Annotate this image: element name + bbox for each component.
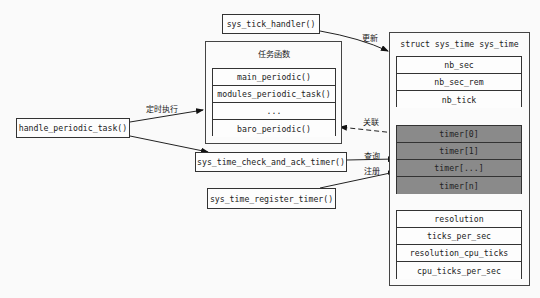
struct-field: ticks_per_sec: [397, 228, 521, 245]
struct-field: cpu_ticks_per_sec: [397, 262, 521, 279]
handle-periodic-task-node: handle_periodic_task(): [16, 118, 130, 138]
task-function-item: ...: [213, 103, 335, 120]
edge-register: [320, 172, 395, 188]
sys-time-struct: struct sys_time sys_time nb_sec nb_sec_r…: [389, 32, 530, 286]
check-and-ack-timer-node: sys_time_check_and_ack_timer(): [195, 152, 347, 172]
edge-label-query: 查询: [364, 150, 380, 161]
timer-slot: timer[n]: [397, 177, 521, 194]
task-function-item: main_periodic(): [213, 69, 335, 86]
resolution-fields: resolution ticks_per_sec resolution_cpu_…: [396, 210, 522, 279]
struct-field: resolution: [397, 211, 521, 228]
struct-title: struct sys_time sys_time: [390, 39, 529, 49]
timer-slot: timer[...]: [397, 160, 521, 177]
node-label: sys_time_register_timer(): [210, 194, 333, 204]
counter-fields: nb_sec nb_sec_rem nb_tick: [396, 56, 522, 107]
timer-slot: timer[0]: [397, 126, 521, 143]
register-timer-node: sys_time_register_timer(): [207, 188, 336, 209]
task-function-item: baro_periodic(): [213, 120, 335, 137]
sys-tick-handler-node: sys_tick_handler(): [222, 14, 320, 34]
struct-field: resolution_cpu_ticks: [397, 245, 521, 262]
struct-field: nb_sec: [397, 57, 521, 74]
struct-field: nb_sec_rem: [397, 74, 521, 91]
edge-label-associate: 关联: [363, 116, 379, 127]
struct-field: nb_tick: [397, 91, 521, 108]
timer-array: timer[0] timer[1] timer[...] timer[n]: [396, 125, 522, 194]
task-functions-group: 任务函数 main_periodic() modules_periodic_ta…: [205, 41, 342, 144]
task-function-list: main_periodic() modules_periodic_task() …: [212, 68, 336, 136]
edge-associate: [340, 127, 395, 133]
task-function-item: modules_periodic_task(): [213, 86, 335, 103]
node-label: sys_tick_handler(): [227, 19, 316, 29]
edge-label-register: 注册: [364, 165, 380, 176]
group-title: 任务函数: [206, 47, 341, 59]
timer-slot: timer[1]: [397, 143, 521, 160]
edge-label-scheduled-exec: 定时执行: [146, 103, 178, 114]
node-label: handle_periodic_task(): [19, 123, 127, 133]
node-label: sys_time_check_and_ack_timer(): [197, 157, 345, 167]
edge-label-update: 更新: [362, 32, 378, 43]
edge-call-check: [130, 136, 208, 152]
